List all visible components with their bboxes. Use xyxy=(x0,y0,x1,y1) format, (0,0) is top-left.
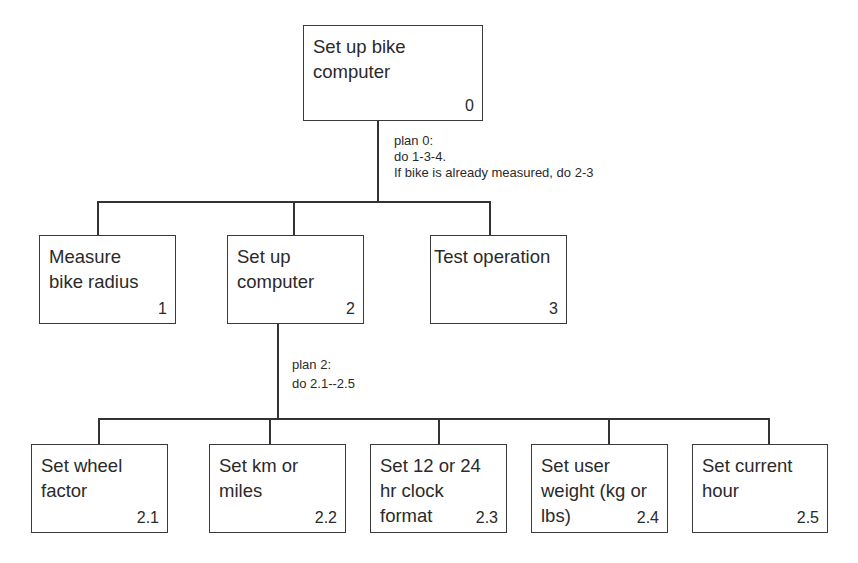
task-number: 2.1 xyxy=(137,509,159,527)
connector-level2-bar xyxy=(98,418,769,420)
plan-2: plan 2: do 2.1--2.5 xyxy=(292,355,355,393)
connector-to-task-3 xyxy=(489,201,491,235)
task-box-2-2: Set km or miles 2.2 xyxy=(209,444,346,533)
task-box-0: Set up bike computer 0 xyxy=(303,25,483,121)
task-label: Set wheel factor xyxy=(41,453,163,503)
task-number: 1 xyxy=(158,300,167,318)
connector-to-task-2-1 xyxy=(98,418,100,444)
task-number: 2.4 xyxy=(637,509,659,527)
task-label: Set current hour xyxy=(702,453,823,503)
connector-task2-drop xyxy=(277,323,279,419)
task-label: Test operation xyxy=(434,244,562,269)
connector-root-drop xyxy=(377,120,379,202)
connector-to-task-1 xyxy=(97,201,99,235)
task-number: 0 xyxy=(465,97,474,115)
task-label: Measure bike radius xyxy=(49,244,171,294)
task-label: Set up bike computer xyxy=(313,34,478,84)
task-number: 3 xyxy=(549,300,558,318)
task-label: Set km or miles xyxy=(219,453,341,503)
task-label: Set up computer xyxy=(237,244,359,294)
task-number: 2.2 xyxy=(315,509,337,527)
task-box-2-1: Set wheel factor 2.1 xyxy=(31,444,168,533)
task-box-3: Test operation 3 xyxy=(430,235,567,324)
task-box-2-4: Set user weight (kg or lbs) 2.4 xyxy=(531,444,668,533)
plan-0: plan 0: do 1-3-4. If bike is already mea… xyxy=(394,133,593,181)
task-box-2: Set up computer 2 xyxy=(227,235,364,324)
task-box-2-5: Set current hour 2.5 xyxy=(692,444,828,533)
connector-to-task-2-4 xyxy=(608,418,610,444)
connector-to-task-2-5 xyxy=(768,418,770,444)
connector-to-task-2-2 xyxy=(269,418,271,444)
connector-to-task-2 xyxy=(293,201,295,235)
task-number: 2.3 xyxy=(476,509,498,527)
connector-to-task-2-3 xyxy=(438,418,440,444)
task-number: 2.5 xyxy=(797,509,819,527)
task-box-2-3: Set 12 or 24 hr clock format 2.3 xyxy=(370,444,507,533)
task-number: 2 xyxy=(346,300,355,318)
task-box-1: Measure bike radius 1 xyxy=(39,235,176,324)
